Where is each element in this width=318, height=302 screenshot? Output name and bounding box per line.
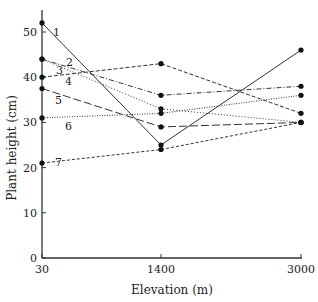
data-point (298, 47, 303, 52)
series-line (42, 122, 301, 163)
series-label: 1 (53, 26, 60, 39)
line-chart: 010203040503014003000Elevation (m)Plant … (0, 0, 318, 302)
data-point (39, 86, 44, 91)
series-line (42, 59, 301, 95)
series-label: 2 (66, 56, 73, 69)
y-axis-title: Plant height (cm) (5, 95, 19, 201)
y-tick-label: 10 (23, 207, 37, 220)
series-label: 7 (55, 156, 62, 169)
x-tick-label: 3000 (287, 263, 315, 276)
y-tick-label: 40 (23, 71, 37, 84)
x-axis-title: Elevation (m) (131, 283, 213, 297)
data-point (298, 93, 303, 98)
data-point (158, 147, 163, 152)
y-tick-label: 20 (23, 162, 37, 175)
x-tick-label: 30 (35, 263, 49, 276)
series-7: 7 (39, 120, 303, 169)
series-line (42, 59, 301, 122)
data-point (158, 124, 163, 129)
series-4: 4 (39, 57, 303, 125)
data-point (158, 111, 163, 116)
series-label: 4 (65, 75, 72, 88)
series-2: 2 (39, 56, 303, 98)
series-5: 5 (39, 86, 303, 130)
data-point (39, 57, 44, 62)
series-1: 1 (39, 20, 303, 147)
x-tick-label: 1400 (147, 263, 175, 276)
data-point (158, 61, 163, 66)
series-label: 5 (55, 94, 62, 107)
data-point (158, 106, 163, 111)
data-point (39, 20, 44, 25)
data-point (39, 160, 44, 165)
series-label: 6 (65, 120, 72, 133)
data-point (158, 93, 163, 98)
y-tick-label: 30 (23, 116, 37, 129)
data-point (39, 115, 44, 120)
data-point (298, 120, 303, 125)
series-line (42, 95, 301, 118)
data-point (298, 84, 303, 89)
data-point (298, 111, 303, 116)
data-point (158, 142, 163, 147)
y-tick-label: 50 (23, 26, 37, 39)
data-point (39, 75, 44, 80)
